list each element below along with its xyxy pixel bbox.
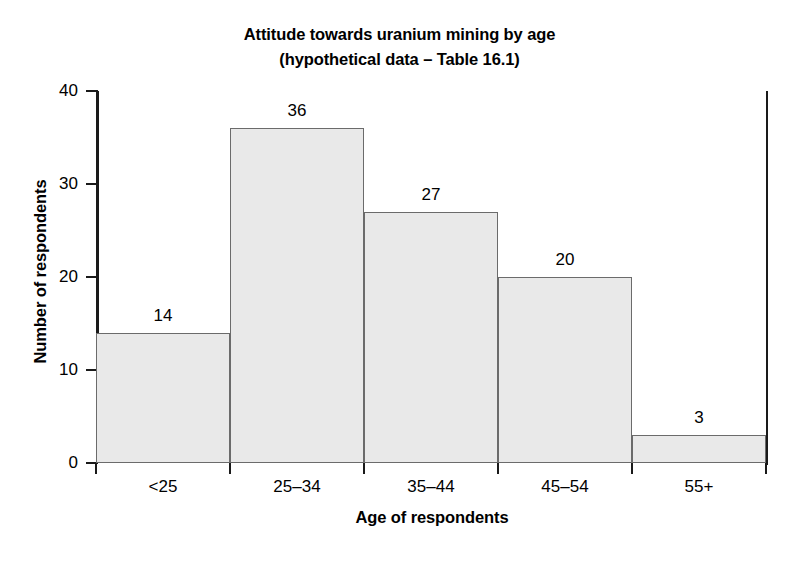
y-axis-tick xyxy=(86,276,98,278)
bar-value-label: 3 xyxy=(632,409,766,426)
x-axis-tick-label: 55+ xyxy=(632,477,766,497)
bar xyxy=(364,212,498,463)
bar xyxy=(96,333,230,463)
x-axis-tick-label: 25–34 xyxy=(230,477,364,497)
plot-right-border xyxy=(766,91,768,465)
bar-value-label: 36 xyxy=(230,102,364,119)
chart-figure: Attitude towards uranium mining by age (… xyxy=(0,0,799,561)
chart-subtitle: (hypothetical data – Table 16.1) xyxy=(0,47,799,72)
y-axis-tick-label: 10 xyxy=(0,361,78,378)
x-axis-title: Age of respondents xyxy=(96,508,768,527)
y-axis-tick-label: 40 xyxy=(0,82,78,99)
x-axis-tick xyxy=(229,462,231,474)
chart-title: Attitude towards uranium mining by age xyxy=(0,22,799,47)
bar-value-label: 20 xyxy=(498,251,632,268)
y-axis-tick-label: 0 xyxy=(0,454,78,471)
x-axis-tick xyxy=(363,462,365,474)
y-axis-tick-label: 30 xyxy=(0,175,78,192)
bar xyxy=(498,277,632,463)
x-axis-tick-label: <25 xyxy=(96,477,230,497)
bar xyxy=(230,128,364,463)
y-axis-tick xyxy=(86,183,98,185)
y-axis-tick-label: 20 xyxy=(0,268,78,285)
x-axis-tick xyxy=(765,462,767,474)
x-axis-tick-label: 35–44 xyxy=(364,477,498,497)
chart-title-block: Attitude towards uranium mining by age (… xyxy=(0,22,799,72)
y-axis-tick xyxy=(86,90,98,92)
bar-value-label: 14 xyxy=(96,307,230,324)
x-axis-tick xyxy=(631,462,633,474)
bar-value-label: 27 xyxy=(364,186,498,203)
x-axis-tick-label: 45–54 xyxy=(498,477,632,497)
bar xyxy=(632,435,766,463)
x-axis-tick xyxy=(497,462,499,474)
x-axis-tick xyxy=(95,462,97,474)
